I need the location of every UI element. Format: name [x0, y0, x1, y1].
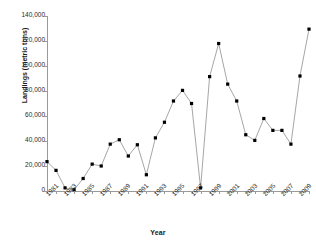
data-point-marker — [181, 89, 184, 92]
y-tick-mark — [44, 116, 47, 117]
y-tick-label: 100,000 — [1, 62, 45, 69]
x-tick-mark — [309, 191, 310, 194]
data-point-marker — [82, 177, 85, 180]
x-axis-title: Year — [0, 229, 316, 236]
data-point-marker — [208, 75, 211, 78]
data-point-marker — [244, 133, 247, 136]
y-tick-label: 60,000 — [1, 112, 45, 119]
y-tick-mark — [44, 41, 47, 42]
data-series-landings — [47, 16, 309, 191]
data-point-marker — [54, 169, 57, 172]
line-chart: Landings (metric tons) 020,00040,00060,0… — [0, 0, 316, 245]
data-point-marker — [145, 173, 148, 176]
y-tick-mark — [44, 166, 47, 167]
data-point-marker — [307, 28, 310, 31]
y-tick-label: 0 — [1, 187, 45, 194]
data-point-marker — [45, 160, 48, 163]
data-point-marker — [298, 74, 301, 77]
data-point-marker — [127, 154, 130, 157]
data-point-marker — [226, 83, 229, 86]
y-tick-mark — [44, 91, 47, 92]
data-point-marker — [154, 136, 157, 139]
data-point-marker — [217, 42, 220, 45]
data-point-marker — [118, 138, 121, 141]
data-point-marker — [91, 163, 94, 166]
y-axis-tick-labels: 020,00040,00060,00080,000100,000120,0001… — [0, 0, 45, 245]
data-point-marker — [271, 129, 274, 132]
y-tick-mark — [44, 141, 47, 142]
y-tick-mark — [44, 16, 47, 17]
y-tick-label: 80,000 — [1, 87, 45, 94]
data-point-marker — [109, 143, 112, 146]
data-point-marker — [280, 129, 283, 132]
data-point-marker — [235, 99, 238, 102]
y-tick-label: 140,000 — [1, 12, 45, 19]
plot-area — [47, 16, 309, 191]
data-point-marker — [262, 117, 265, 120]
series-line — [47, 29, 309, 190]
data-point-marker — [253, 139, 256, 142]
data-point-marker — [136, 143, 139, 146]
y-tick-label: 120,000 — [1, 37, 45, 44]
data-point-marker — [172, 99, 175, 102]
y-tick-label: 20,000 — [1, 162, 45, 169]
y-tick-mark — [44, 66, 47, 67]
data-point-marker — [163, 121, 166, 124]
data-point-marker — [100, 164, 103, 167]
data-point-marker — [289, 143, 292, 146]
data-point-marker — [190, 102, 193, 105]
x-axis-tick-labels: 1981198319851987198919911993199519971999… — [47, 191, 309, 231]
y-tick-label: 40,000 — [1, 137, 45, 144]
